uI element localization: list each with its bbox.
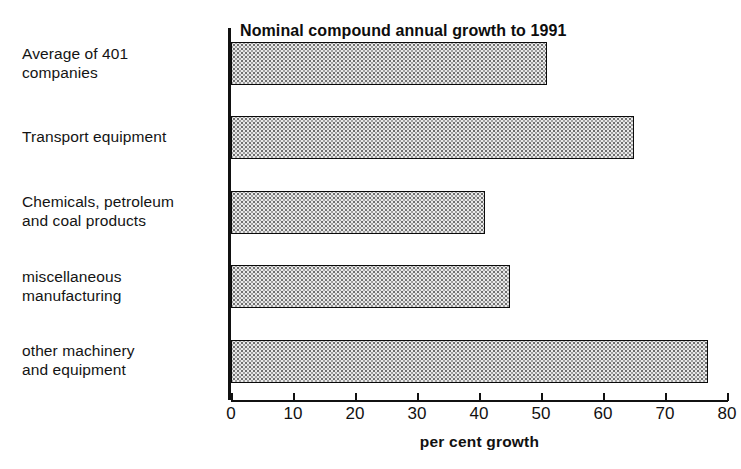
bar	[231, 265, 510, 308]
x-axis-tick	[603, 393, 605, 401]
bar	[231, 340, 708, 383]
category-label: Transport equipment	[22, 127, 222, 146]
x-axis-tick-label: 40	[459, 404, 499, 424]
x-axis-tick	[541, 393, 543, 401]
x-axis-tick-label: 30	[397, 404, 437, 424]
category-label: Chemicals, petroleum and coal products	[22, 192, 222, 230]
bar	[231, 191, 485, 234]
x-axis-tick-label: 80	[707, 404, 741, 424]
x-axis-tick	[665, 393, 667, 401]
x-axis-tick-label: 60	[583, 404, 623, 424]
x-axis-tick	[417, 393, 419, 401]
category-label: miscellaneous manufacturing	[22, 267, 222, 305]
x-axis-tick	[727, 393, 729, 401]
category-label: Average of 401 companies	[22, 44, 222, 82]
x-axis-tick	[231, 393, 233, 401]
x-axis-tick-label: 50	[521, 404, 561, 424]
x-axis-title: per cent growth	[231, 433, 728, 451]
x-axis-tick-label: 10	[273, 404, 313, 424]
x-axis-tick-label: 0	[211, 404, 251, 424]
bar-chart-figure: Nominal compound annual growth to 1991 S…	[0, 0, 741, 469]
x-axis-tick	[355, 393, 357, 401]
plot-area	[231, 28, 727, 400]
x-axis-tick	[479, 393, 481, 401]
bar	[231, 42, 547, 85]
category-label-group: Average of 401 companiesTransport equipm…	[0, 0, 222, 469]
category-label: other machinery and equipment	[22, 341, 222, 379]
x-axis-tick-label: 70	[645, 404, 685, 424]
x-axis-tick	[293, 393, 295, 401]
bar	[231, 116, 634, 159]
x-axis-tick-label: 20	[335, 404, 375, 424]
